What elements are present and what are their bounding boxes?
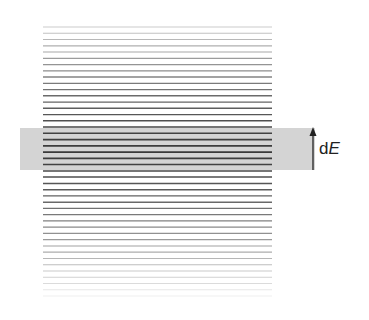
- energy-level-diagram: dE: [0, 0, 369, 320]
- dE-label: dE: [319, 139, 340, 159]
- dE-label-symbol: E: [328, 139, 339, 158]
- energy-interval-band: [20, 128, 315, 170]
- energy-levels-svg: [0, 0, 369, 320]
